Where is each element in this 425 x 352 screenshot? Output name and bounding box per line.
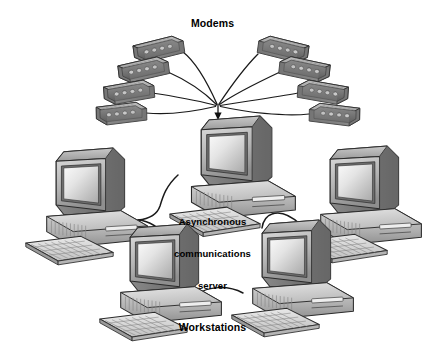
modem-left-3	[103, 79, 155, 105]
link-modem-right-3	[220, 93, 298, 106]
workstations-label: Workstations	[0, 322, 425, 334]
server-label-line-2: communications	[0, 249, 425, 260]
link-modem-right-4	[221, 107, 310, 115]
modem-right-2	[278, 56, 330, 83]
modem-right-3	[297, 79, 349, 105]
monitor	[201, 116, 272, 187]
server-label-line-3: server	[0, 281, 425, 292]
link-modem-right-2	[220, 72, 281, 105]
server-label-line-1: Asynchronous	[0, 217, 425, 228]
link-modem-left-1	[183, 52, 217, 104]
server-label: Asynchronous communications server	[0, 196, 425, 313]
link-modem-right-1	[219, 54, 258, 104]
diagram-canvas: Modems Asynchronous communications serve…	[0, 0, 425, 352]
link-modem-left-4	[146, 107, 216, 114]
modems-label: Modems	[0, 18, 425, 30]
modem-group-right	[257, 35, 360, 126]
modem-right-4	[309, 103, 360, 126]
modem-left-4	[96, 102, 147, 125]
modem-group-left	[96, 35, 185, 125]
modem-left-2	[117, 56, 170, 84]
